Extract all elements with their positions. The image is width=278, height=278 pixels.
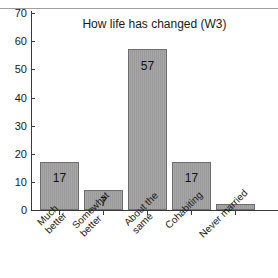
y-axis-label-50: 50 — [3, 64, 27, 75]
y-tick-20 — [31, 154, 35, 155]
chart-title: How life has changed (W3) — [31, 18, 278, 31]
y-label-40-wrap: 40 — [0, 93, 27, 104]
bar-chart-figure: How life has changed (W3) 70 60 50 40 30… — [0, 0, 278, 278]
y-label-10-wrap: 10 — [0, 177, 27, 188]
top-separator-rule — [0, 8, 278, 9]
y-axis-label-30: 30 — [3, 121, 27, 132]
y-label-70-wrap: 70 — [0, 8, 27, 19]
y-label-30-wrap: 30 — [0, 121, 27, 132]
y-tick-70 — [31, 13, 35, 14]
y-tick-50 — [31, 69, 35, 70]
x-tick-cohabiting — [191, 211, 192, 215]
y-tick-30 — [31, 126, 35, 127]
y-axis-label-60: 60 — [3, 36, 27, 47]
y-axis-label-70: 70 — [3, 8, 27, 19]
y-tick-10 — [31, 182, 35, 183]
bar-value-about-the-same: 57 — [128, 60, 167, 72]
bar-much-better — [40, 162, 79, 210]
y-axis-label-10: 10 — [3, 177, 27, 188]
bar-value-much-better: 17 — [40, 172, 79, 184]
y-axis-label-40: 40 — [3, 93, 27, 104]
bar-about-the-same — [128, 49, 167, 210]
x-tick-never-married — [235, 211, 236, 215]
bar-value-cohabiting: 17 — [172, 172, 211, 184]
y-label-50-wrap: 50 — [0, 64, 27, 75]
y-label-0-wrap: 0 — [0, 205, 27, 216]
y-axis-label-20: 20 — [3, 149, 27, 160]
y-tick-0 — [31, 210, 35, 211]
y-tick-60 — [31, 41, 35, 42]
y-tick-40 — [31, 98, 35, 99]
y-axis-label-0: 0 — [3, 205, 27, 216]
y-label-20-wrap: 20 — [0, 149, 27, 160]
y-label-60-wrap: 60 — [0, 36, 27, 47]
